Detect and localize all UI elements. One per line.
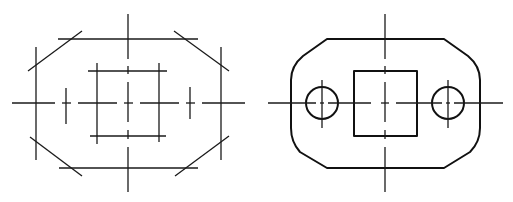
chamfer-bottom-left	[30, 137, 82, 176]
technical-drawing	[0, 0, 513, 202]
construction-panel	[12, 14, 245, 192]
finished-panel	[268, 14, 503, 192]
